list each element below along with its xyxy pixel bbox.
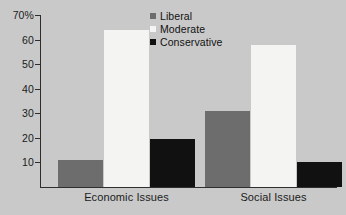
legend-label-moderate: Moderate — [160, 24, 205, 35]
plot-area: 10203040506070% Economic IssuesSocial Is… — [0, 0, 346, 215]
y-tick-50 — [35, 64, 40, 65]
y-tick-label-40: 40 — [22, 84, 34, 95]
legend-swatch-icon-moderate — [150, 26, 156, 32]
y-tick-label-50: 50 — [22, 59, 34, 70]
legend-label-conservative: Conservative — [160, 37, 222, 48]
y-tick-label-60: 60 — [22, 35, 34, 46]
y-tick-label-10: 10 — [22, 157, 34, 168]
legend-item-liberal: Liberal — [150, 10, 222, 22]
y-tick-70 — [35, 15, 40, 16]
y-tick-label-70: 70% — [13, 10, 34, 21]
legend-swatch-icon-conservative — [150, 39, 156, 45]
bar-moderate-1 — [251, 45, 296, 188]
legend: Liberal Moderate Conservative — [150, 10, 222, 49]
bar-conservative-1 — [297, 162, 342, 187]
legend-swatch-icon-liberal — [150, 13, 156, 19]
bar-chart: 10203040506070% Economic IssuesSocial Is… — [0, 0, 346, 215]
x-axis-line — [40, 187, 337, 188]
legend-item-conservative: Conservative — [150, 36, 222, 48]
y-tick-40 — [35, 89, 40, 90]
y-tick-60 — [35, 40, 40, 41]
y-tick-10 — [35, 162, 40, 163]
bar-liberal-1 — [205, 111, 250, 187]
x-axis-label-0: Economic Issues — [58, 191, 195, 203]
y-tick-label-30: 30 — [22, 108, 34, 119]
bar-conservative-0 — [150, 139, 195, 187]
legend-label-liberal: Liberal — [160, 11, 192, 22]
x-axis-label-1: Social Issues — [205, 191, 342, 203]
y-tick-20 — [35, 138, 40, 139]
y-tick-label-20: 20 — [22, 133, 34, 144]
bar-moderate-0 — [104, 30, 149, 187]
bar-liberal-0 — [58, 160, 103, 187]
y-axis-line — [40, 15, 41, 187]
y-tick-30 — [35, 113, 40, 114]
legend-item-moderate: Moderate — [150, 23, 222, 35]
